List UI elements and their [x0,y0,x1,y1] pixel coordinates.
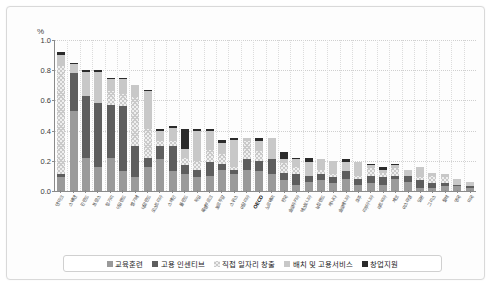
x-tick-label: 핀란드 [79,194,90,207]
x-tick-mark [457,190,458,193]
x-tick-label: 캐나다 [327,194,338,207]
bar-segment [70,111,78,191]
x-tick-mark [346,190,347,193]
stacked-bar[interactable] [416,167,424,191]
x-label-slot: 미국 [463,193,475,235]
x-tick-mark [321,190,322,193]
stacked-bar[interactable] [230,138,238,191]
bar-slot [439,40,451,191]
bar-slot [340,40,352,191]
stacked-bar[interactable] [329,161,337,191]
bar-segment [70,73,78,111]
x-label-slot: 프랑스 [91,193,103,235]
stacked-bar[interactable] [255,138,263,191]
x-tick-mark [234,190,235,193]
x-label-slot: 체코 [389,193,401,235]
stacked-bar[interactable] [218,140,226,191]
legend-swatch-icon [362,261,368,267]
legend-item[interactable]: 창업지원 [362,258,399,269]
x-label-slot: 에스토니아 [302,193,314,235]
stacked-bar[interactable] [169,126,177,191]
bar-segment [131,97,139,145]
bar-segment [193,170,201,178]
bar-slot [389,40,401,191]
stacked-bar[interactable] [131,85,139,191]
bar-segment [107,158,115,191]
x-tick-label: 이탈리아 [238,194,251,211]
bar-segment [169,171,177,191]
stacked-bar[interactable] [94,70,102,191]
bar-slot [129,40,141,191]
stacked-bar[interactable] [391,164,399,191]
legend-label: 배치 및 고용서비스 [293,258,353,269]
stacked-bar[interactable] [156,129,164,191]
x-label-slot: 덴마크 [54,193,66,235]
x-tick-mark [110,190,111,193]
bar-segment [416,167,424,178]
x-label-slot: 아일랜드 [116,193,128,235]
stacked-bar[interactable] [292,158,300,191]
bar-segment [342,162,350,171]
stacked-bar[interactable] [280,152,288,191]
bar-segment [144,167,152,191]
legend-item[interactable]: 배치 및 고용서비스 [284,258,353,269]
legend-label: 직접 일자리 창출 [222,258,275,269]
stacked-bar[interactable] [57,52,65,191]
bar-slot [216,40,228,191]
x-tick-label: 스위스 [228,194,239,207]
stacked-bar[interactable] [342,159,350,191]
x-label-slot: 뉴질랜드 [315,193,327,235]
stacked-bar[interactable] [305,158,313,191]
x-tick-label: 칠레 [441,194,450,204]
x-label-slot: 핀란드 [79,193,91,235]
bar-segment [268,159,276,174]
bar-slot [463,40,475,191]
x-tick-mark [395,190,396,193]
stacked-bar[interactable] [243,138,251,191]
x-label-slot: 스웨덴 [66,193,78,235]
bar-segment [193,131,201,161]
stacked-bar[interactable] [379,167,387,191]
stacked-bar[interactable] [206,129,214,191]
x-tick-label: 덴마크 [54,194,65,207]
stacked-bar[interactable] [367,164,375,191]
x-label-slot: 오스트리아 [153,193,165,235]
x-label-slot: 포르투갈 [215,193,227,235]
x-tick-mark [184,190,185,193]
legend-item[interactable]: 고용 인센티브 [152,258,205,269]
bar-segment [169,128,177,142]
bar-segment [206,162,214,176]
bar-segment [354,162,362,176]
stacked-bar[interactable] [317,159,325,191]
stacked-bar[interactable] [82,70,90,191]
bar-segment [255,150,263,161]
x-label-slot: 한국 [277,193,289,235]
bar-segment [107,79,115,91]
stacked-bar[interactable] [404,170,412,191]
x-tick-label: 뉴질랜드 [313,194,326,211]
stacked-bar[interactable] [181,129,189,191]
stacked-bar[interactable] [70,63,78,191]
stacked-bar[interactable] [441,174,449,191]
bar-segment [292,174,300,185]
stacked-bar[interactable] [354,162,362,191]
bar-segment [156,159,164,191]
x-label-slot: 슬로바키아 [290,193,302,235]
legend-item[interactable]: 직접 일자리 창출 [214,258,276,269]
stacked-bar[interactable] [428,173,436,191]
legend-item[interactable]: 교육훈련 [107,258,144,269]
x-label-slot: 네덜란드 [141,193,153,235]
stacked-bar[interactable] [193,129,201,191]
x-label-slot: OECD [253,193,265,235]
stacked-bar[interactable] [107,78,115,191]
stacked-bar[interactable] [119,78,127,191]
bar-segment [342,171,350,179]
x-label-slot: 슬로베니아 [339,193,351,235]
stacked-bar[interactable] [268,138,276,191]
bar-slot [377,40,389,191]
bar-segment [230,140,238,167]
bar-slot [55,40,67,191]
bar-slot [290,40,302,191]
bar-segment [82,96,90,158]
stacked-bar[interactable] [144,90,152,191]
